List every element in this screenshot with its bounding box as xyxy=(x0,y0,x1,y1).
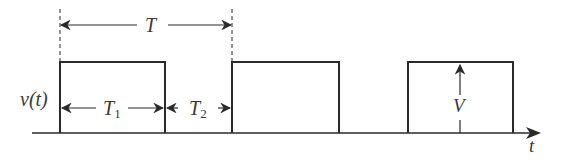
pulse-train-diagram: T T1 T2 V v(t) t xyxy=(0,0,564,166)
time-axis xyxy=(32,127,541,139)
pulse-waveform xyxy=(60,62,513,133)
time-axis-label: t xyxy=(529,135,535,156)
off-time-label: T2 xyxy=(189,97,207,121)
on-time-label: T1 xyxy=(103,97,121,121)
pulse-2 xyxy=(232,62,339,133)
signal-label: v(t) xyxy=(20,88,48,111)
amplitude-label: V xyxy=(453,95,467,116)
period-label: T xyxy=(145,14,158,36)
